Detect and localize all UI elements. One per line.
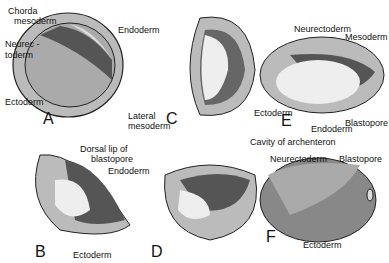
label-ectoderm-b: Ectoderm — [73, 250, 112, 260]
panel-letter-c: C — [166, 110, 178, 128]
panel-letter-b: B — [35, 243, 46, 261]
panel-d-embryo — [165, 165, 257, 240]
label-ectoderm-a: Ectoderm — [5, 97, 44, 107]
label-chorda-2: mesoderm — [14, 16, 57, 26]
panel-e-embryo — [260, 37, 384, 113]
label-endoderm-a: Endoderm — [118, 25, 160, 35]
label-endoderm-b: Endoderm — [108, 166, 150, 176]
label-chorda: Chorda — [8, 6, 38, 16]
panel-letter-e: E — [281, 112, 292, 130]
panel-letter-f: F — [266, 228, 276, 246]
panel-letter-a: A — [43, 110, 54, 128]
panel-letter-d: D — [151, 243, 163, 261]
label-ectoderm-f: Ectoderm — [303, 240, 342, 250]
label-mesoderm-e: Mesoderm — [345, 32, 388, 42]
label-cavity: Cavity of archenteron — [250, 137, 336, 147]
panel-f-embryo — [260, 158, 376, 242]
label-blastopore-f: Blastopore — [339, 154, 382, 164]
label-neurectoderm-f: Neurectoderm — [270, 154, 327, 164]
label-lateral: Lateral — [128, 111, 156, 121]
label-neurec: Neurec - — [5, 39, 40, 49]
label-lateral-2: mesoderm — [128, 121, 171, 131]
label-dorsal-lip-2: blastopore — [91, 154, 133, 164]
label-blastopore-e: Blastopore — [345, 118, 388, 128]
label-dorsal-lip: Dorsal lip of — [80, 144, 128, 154]
label-neurec-2: toderm — [5, 50, 33, 60]
label-neurectoderm-e: Neurectoderm — [294, 24, 351, 34]
panel-c-embryo — [190, 17, 255, 115]
